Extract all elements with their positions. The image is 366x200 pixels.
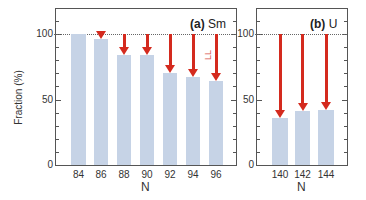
panel-a-y-tick <box>56 165 61 166</box>
panel-b-y-tick-label: 0 <box>236 159 254 170</box>
panel-a-arrowhead-icon <box>96 31 106 39</box>
panel-a-x-tick-label: 96 <box>201 169 231 180</box>
panel-b-y-tick <box>257 152 260 153</box>
panel-a-y-tick <box>56 8 59 9</box>
panel-a-y-tick-right <box>233 152 236 153</box>
panel-a-y-tick <box>56 113 59 114</box>
panel-b-y-tick-label: 50 <box>236 94 254 105</box>
panel-b-y-tick-right <box>344 60 347 61</box>
panel-b-y-tick-right <box>344 8 347 9</box>
panel-a-y-tick <box>56 152 59 153</box>
panel-a-y-tick-right <box>233 47 236 48</box>
panel-a-arrow-92 <box>169 34 172 66</box>
panel-a-bar-90 <box>140 55 154 165</box>
panel-b-y-tick-right <box>344 126 347 127</box>
panel-a-arrowhead-icon <box>188 69 198 77</box>
panel-b-y-tick <box>257 73 260 74</box>
panel-b-y-tick-right <box>342 165 347 166</box>
panel-b-bar-142 <box>295 111 310 165</box>
panel-b-y-tick-label: 100 <box>236 28 254 39</box>
panel-b-y-tick <box>257 60 260 61</box>
panel-b-y-tick-right <box>344 139 347 140</box>
panel-a-y-tick-label: 50 <box>35 94 53 105</box>
panel-a-arrowhead-icon <box>165 65 175 73</box>
panel-b-y-tick <box>257 113 260 114</box>
panel-a-bar-88 <box>117 55 131 165</box>
panel-a-y-tick <box>56 21 59 22</box>
panel-a-y-tick <box>56 100 61 101</box>
panel-b-y-tick <box>257 47 260 48</box>
panel-b-arrow-142 <box>301 34 304 104</box>
panel-a-y-tick-right <box>233 139 236 140</box>
x-axis-label-a: N <box>141 180 150 194</box>
panel-b-y-tick-right <box>344 73 347 74</box>
panel-a-y-tick <box>56 126 59 127</box>
panel-b-y-tick-right <box>342 100 347 101</box>
panel-a-arrowhead-icon <box>142 47 152 55</box>
panel-a-y-tick-right <box>233 126 236 127</box>
panel-b-bar-144 <box>318 110 334 165</box>
panel-b-y-tick <box>257 8 260 9</box>
panel-b-y-tick <box>257 100 262 101</box>
panel-b-arrowhead-icon <box>321 102 331 110</box>
panel-a-bar-96 <box>209 81 223 165</box>
panel-b-arrowhead-icon <box>275 110 285 118</box>
panel-b-bar-140 <box>272 118 288 165</box>
panel-a-arrowhead-icon <box>211 73 221 81</box>
panel-b-arrow-144 <box>325 34 328 103</box>
panel-a-bar-86 <box>94 39 108 165</box>
panel-b-y-tick-right <box>344 21 347 22</box>
panel-a-arrow-94 <box>192 34 195 70</box>
panel-b-y-tick <box>257 139 260 140</box>
panel-b-y-tick <box>257 126 260 127</box>
panel-a-arrow-90 <box>146 34 149 48</box>
panel-a-y-tick-right <box>233 86 236 87</box>
panel-b-y-tick <box>257 165 262 166</box>
panel-b-y-tick <box>257 21 260 22</box>
panel-a-y-tick-right <box>233 113 236 114</box>
panel-b-arrow-140 <box>279 34 282 111</box>
x-axis-label-b: N <box>297 180 306 194</box>
panel-a-y-tick-right <box>233 73 236 74</box>
panel-a-y-tick <box>56 47 59 48</box>
panel-a-y-tick-right <box>233 60 236 61</box>
panel-a-y-tick <box>56 86 59 87</box>
panel-b-y-tick-right <box>344 113 347 114</box>
panel-b-x-tick-label: 144 <box>311 169 341 180</box>
panel-b-y-tick-right <box>344 86 347 87</box>
panel-a-arrowhead-icon <box>119 47 129 55</box>
panel-a-arrow-88 <box>123 34 126 48</box>
panel-a-y-tick-right <box>233 21 236 22</box>
panel-a-bar-84 <box>71 34 86 165</box>
panel-a-y-tick-label: 100 <box>35 28 53 39</box>
panel-b-y-tick-right <box>344 47 347 48</box>
panel-b-y-tick <box>257 86 260 87</box>
panel-a-arrow-96 <box>215 34 218 74</box>
panel-b-arrowhead-icon <box>298 103 308 111</box>
panel-a-y-tick <box>56 60 59 61</box>
panel-a-bar-92 <box>163 73 177 165</box>
panel-a-y-tick-label: 0 <box>35 159 53 170</box>
panel-b-y-tick-right <box>344 152 347 153</box>
panel-a-y-tick-right <box>233 8 236 9</box>
panel-a-y-tick <box>56 139 59 140</box>
panel-a-bar-94 <box>186 77 200 165</box>
y-axis-label: Fraction (%) <box>13 68 24 128</box>
panel-a-y-tick <box>56 73 59 74</box>
